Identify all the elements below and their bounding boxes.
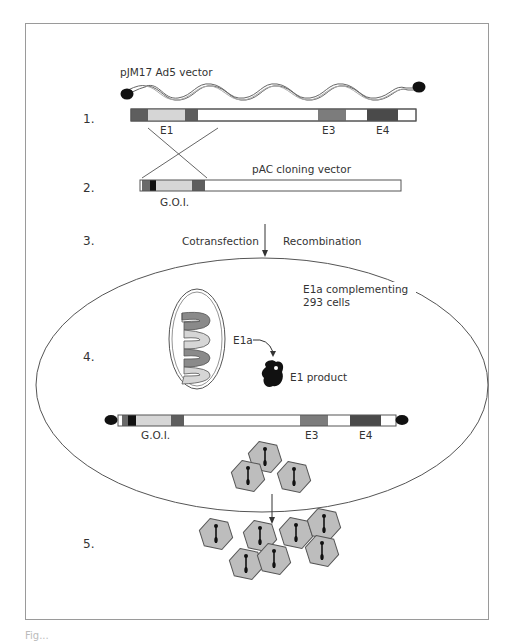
- down-arrow-icon: [262, 224, 268, 257]
- adenovirus-recombination-diagram: 1. 2. 3. 4. 5. pJM17 Ad5 vector E1 E3 E4…: [0, 0, 509, 641]
- virion-icon: [196, 517, 235, 551]
- pac-vector-bar: [140, 180, 401, 191]
- recombinant-genome-bar: [118, 415, 396, 426]
- chromosomal-dna-icon: [182, 312, 210, 384]
- crossover-line-2: [142, 128, 218, 178]
- e3-label-recombinant: E3: [305, 429, 318, 441]
- crossover-line-1: [148, 128, 207, 178]
- terminal-protein-left-icon: [121, 89, 134, 100]
- pjm17-vector-label: pJM17 Ad5 vector: [120, 66, 213, 78]
- step-number-5: 5.: [83, 537, 94, 551]
- dna-helix-icon: [128, 84, 416, 100]
- cell-label-line2: 293 cells: [303, 296, 350, 308]
- cell-label-line1: E1a complementing: [303, 283, 408, 295]
- terminal-protein-right-icon: [396, 415, 409, 425]
- e1-product-protein-icon: [262, 360, 283, 387]
- e4-label-recombinant: E4: [359, 429, 373, 441]
- terminal-protein-right-icon: [413, 82, 426, 93]
- down-arrow-icon: [269, 494, 275, 524]
- step-number-3: 3.: [83, 234, 94, 248]
- virion-icon: [274, 460, 313, 494]
- region-label-e3: E3: [322, 124, 335, 136]
- pjm17-genome-bar: [131, 109, 416, 121]
- region-label-e1: E1: [160, 124, 173, 136]
- terminal-protein-left-icon: [105, 415, 118, 425]
- e1a-gene-label: E1a: [233, 334, 253, 346]
- region-label-e4: E4: [376, 124, 390, 136]
- recombination-label: Recombination: [283, 235, 362, 247]
- goi-label-recombinant: G.O.I.: [141, 429, 170, 441]
- nucleus-icon: [169, 289, 225, 389]
- curved-arrow-icon: [253, 340, 276, 357]
- figure-caption-fragment: Fig...: [25, 630, 49, 641]
- goi-label: G.O.I.: [160, 196, 189, 208]
- e1-product-label: E1 product: [290, 371, 347, 383]
- cotransfection-label: Cotransfection: [182, 235, 259, 247]
- pac-vector-label: pAC cloning vector: [252, 163, 352, 175]
- step-number-2: 2.: [83, 181, 94, 195]
- step-number-1: 1.: [83, 112, 94, 126]
- step-number-4: 4.: [83, 350, 94, 364]
